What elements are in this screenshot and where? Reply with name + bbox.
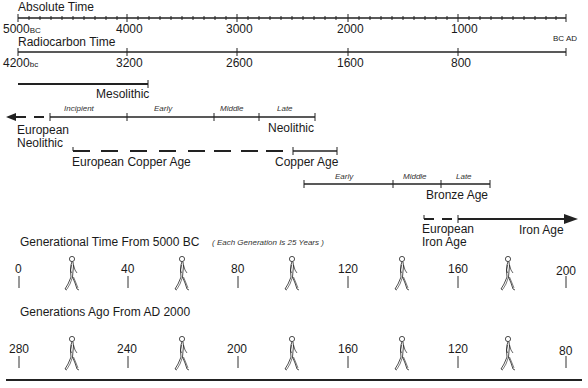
gen-tick-40: 40: [121, 262, 134, 276]
neolithic-phase-middle: Middle: [220, 104, 244, 113]
abs-tick-3000: 3000: [226, 22, 253, 36]
copper-age-bar: [73, 147, 337, 155]
bronze-age-bar: [304, 180, 490, 188]
ago-tick-280: 280: [9, 342, 29, 356]
radiocarbon-time-axis: [18, 48, 566, 56]
neolithic-phase-late: Late: [277, 104, 293, 113]
abs-tick-2000: 2000: [337, 22, 364, 36]
abs-tick-4000: 4000: [116, 22, 143, 36]
ago-tick-80: 80: [559, 344, 572, 358]
neolithic-bar: [6, 113, 315, 121]
gen-tick-200: 200: [556, 264, 576, 278]
bronze-phase-early: Early: [335, 172, 353, 181]
gen-tick-120: 120: [338, 262, 358, 276]
timeline-graphics: [0, 0, 588, 388]
european-neolithic-label-2: Neolithic: [17, 137, 63, 150]
generations-ago-title: Generations Ago From AD 2000: [20, 305, 190, 319]
ago-tick-160: 160: [338, 342, 358, 356]
absolute-time-axis: [18, 14, 566, 22]
gen-tick-160: 160: [448, 262, 468, 276]
rc-tick-2600: 2600: [226, 56, 253, 70]
mesolithic-label: Mesolithic: [96, 88, 149, 101]
gen-tick-0: 0: [15, 262, 22, 276]
ago-tick-120: 120: [448, 342, 468, 356]
bc-ad-label: BC AD: [553, 34, 577, 43]
abs-tick-1000: 1000: [451, 22, 478, 36]
absolute-time-title: Absolute Time: [18, 0, 94, 14]
gen-tick-80: 80: [231, 262, 244, 276]
european-iron-age-label-2: Iron Age: [422, 236, 467, 249]
copper-age-label: Copper Age: [275, 156, 338, 169]
rc-tick-4200: 4200bc: [3, 56, 38, 70]
ago-tick-200: 200: [227, 342, 247, 356]
bronze-age-label: Bronze Age: [426, 189, 488, 202]
rc-tick-1600: 1600: [337, 56, 364, 70]
rc-tick-3200: 3200: [116, 56, 143, 70]
bronze-phase-middle: Middle: [403, 172, 427, 181]
european-copper-age-label: European Copper Age: [72, 156, 191, 169]
iron-age-label: Iron Age: [519, 224, 564, 237]
generational-time-title: Generational Time From 5000 BC: [20, 235, 199, 249]
neolithic-phase-early: Early: [154, 104, 172, 113]
bronze-phase-late: Late: [456, 172, 472, 181]
radiocarbon-time-title: Radiocarbon Time: [18, 35, 115, 49]
abs-tick-5000: 5000BC: [3, 22, 41, 36]
ago-tick-240: 240: [117, 342, 137, 356]
generation-note: ( Each Generation Is 25 Years ): [212, 238, 324, 247]
rc-tick-800: 800: [451, 56, 471, 70]
neolithic-label: Neolithic: [268, 122, 314, 135]
neolithic-phase-incipient: Incipient: [64, 104, 94, 113]
